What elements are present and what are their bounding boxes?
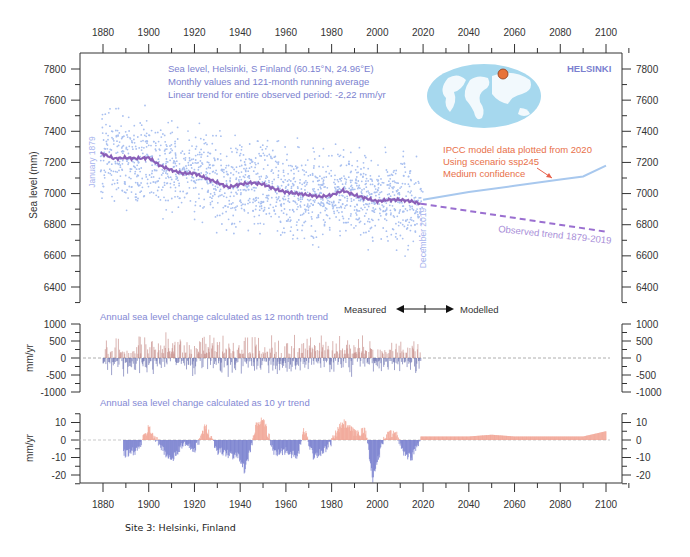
svg-text:6800: 6800 <box>636 219 659 230</box>
measured-modelled-arrow <box>396 305 454 313</box>
svg-text:2020: 2020 <box>412 499 435 510</box>
svg-text:1980: 1980 <box>321 27 344 38</box>
svg-text:-20: -20 <box>636 470 651 481</box>
station-label: HELSINKI <box>567 63 611 74</box>
svg-text:-10: -10 <box>636 452 651 463</box>
monthly-scatter <box>100 105 424 257</box>
svg-text:0: 0 <box>60 353 66 364</box>
svg-text:1940: 1940 <box>229 499 252 510</box>
svg-text:-500: -500 <box>46 370 66 381</box>
y-axis-title-sea-level: Sea level (mm) <box>28 151 39 218</box>
chart-canvas: 1880190019201940196019802000202020402060… <box>0 0 690 557</box>
panel3-ylabel: mm/yr <box>24 433 35 461</box>
svg-text:2100: 2100 <box>595 27 618 38</box>
panel3-title: Annual sea level change calculated as 10… <box>100 397 310 408</box>
end-label: December 2019 <box>418 207 428 268</box>
ipcc-line-1: IPCC model data plotted from 2020 <box>443 144 592 155</box>
panel2-ylabel: mm/yr <box>24 343 35 371</box>
top-x-axis: 1880190019201940196019802000202020402060… <box>80 27 629 53</box>
svg-text:7000: 7000 <box>44 188 67 199</box>
svg-text:2040: 2040 <box>458 499 481 510</box>
panel3-y-axis-left: -20-10010 <box>52 414 80 484</box>
svg-text:500: 500 <box>636 336 653 347</box>
panel3-area <box>124 418 606 483</box>
svg-text:1940: 1940 <box>229 27 252 38</box>
svg-text:1920: 1920 <box>183 27 206 38</box>
panel3-y-axis-right: -20-10010 <box>622 414 651 484</box>
panel2-y-axis-left: -1000-50005001000 <box>40 319 80 398</box>
panel2-bars <box>103 332 421 377</box>
svg-text:2000: 2000 <box>366 499 389 510</box>
svg-text:2080: 2080 <box>549 499 572 510</box>
svg-text:6600: 6600 <box>636 250 659 261</box>
svg-text:7200: 7200 <box>636 157 659 168</box>
main-y-axis-right: 64006600680070007200740076007800 <box>622 53 659 303</box>
info-line-2: Monthly values and 121-month running ave… <box>168 76 369 87</box>
svg-text:2060: 2060 <box>503 27 526 38</box>
svg-text:-10: -10 <box>52 452 67 463</box>
start-label: January 1879 <box>87 136 97 188</box>
svg-text:1960: 1960 <box>275 27 298 38</box>
figure-caption: Site 3: Helsinki, Finland <box>125 522 236 533</box>
svg-text:10: 10 <box>636 417 648 428</box>
svg-text:7800: 7800 <box>44 64 67 75</box>
svg-text:7400: 7400 <box>44 126 67 137</box>
svg-text:-1000: -1000 <box>40 387 66 398</box>
svg-text:7200: 7200 <box>44 157 67 168</box>
svg-text:500: 500 <box>49 336 66 347</box>
svg-text:1900: 1900 <box>138 27 161 38</box>
svg-text:1880: 1880 <box>92 27 115 38</box>
modelled-label: Modelled <box>460 304 499 315</box>
panel2-title: Annual sea level change calculated as 12… <box>100 311 328 322</box>
svg-text:10: 10 <box>55 417 67 428</box>
svg-text:0: 0 <box>636 435 642 446</box>
svg-text:-1000: -1000 <box>636 387 662 398</box>
svg-text:1960: 1960 <box>275 499 298 510</box>
helsinki-marker <box>498 69 508 79</box>
svg-text:-500: -500 <box>636 370 656 381</box>
svg-text:2040: 2040 <box>458 27 481 38</box>
svg-text:2000: 2000 <box>366 27 389 38</box>
info-line-3: Linear trend for entire observed period:… <box>168 89 386 100</box>
info-line-1: Sea level, Helsinki, S Finland (60.15°N,… <box>168 63 374 74</box>
svg-text:1000: 1000 <box>636 319 659 330</box>
ipcc-line-3: Medium confidence <box>443 168 525 179</box>
svg-text:1920: 1920 <box>183 499 206 510</box>
ipcc-line-2: Using scenario ssp245 <box>443 156 539 167</box>
ipcc-arrowhead <box>546 173 552 178</box>
svg-text:1000: 1000 <box>44 319 67 330</box>
measured-label: Measured <box>344 304 386 315</box>
svg-text:7800: 7800 <box>636 64 659 75</box>
running-average-line <box>101 152 421 204</box>
svg-text:1980: 1980 <box>321 499 344 510</box>
main-y-axis-left: 64006600680070007200740076007800 <box>44 53 80 303</box>
world-map-inset <box>427 64 541 128</box>
svg-text:6400: 6400 <box>44 282 67 293</box>
svg-text:2020: 2020 <box>412 27 435 38</box>
svg-text:7400: 7400 <box>636 126 659 137</box>
svg-text:1880: 1880 <box>92 499 115 510</box>
panel2-y-axis-right: -1000-50005001000 <box>622 319 662 398</box>
trend-label: Observed trend 1879-2019 <box>498 223 612 246</box>
svg-text:0: 0 <box>60 435 66 446</box>
svg-text:7600: 7600 <box>44 95 67 106</box>
svg-text:7600: 7600 <box>636 95 659 106</box>
svg-text:2080: 2080 <box>549 27 572 38</box>
svg-text:2100: 2100 <box>595 499 618 510</box>
svg-text:-20: -20 <box>52 470 67 481</box>
svg-text:0: 0 <box>636 353 642 364</box>
svg-text:6800: 6800 <box>44 219 67 230</box>
svg-text:7000: 7000 <box>636 188 659 199</box>
svg-text:6400: 6400 <box>636 282 659 293</box>
svg-text:2060: 2060 <box>503 499 526 510</box>
svg-text:6600: 6600 <box>44 250 67 261</box>
svg-text:1900: 1900 <box>138 499 161 510</box>
bottom-x-axis: 1880190019201940196019802000202020402060… <box>80 483 629 510</box>
